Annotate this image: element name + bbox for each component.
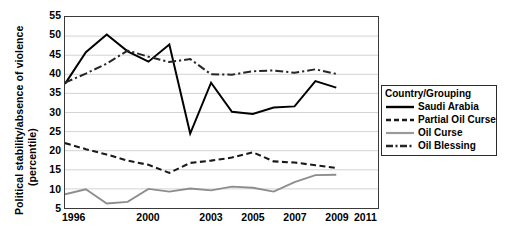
legend-label: Oil Blessing (418, 140, 476, 152)
x-axis-tick-labels: 1996200020032005200720092011 (64, 211, 379, 231)
legend-swatch-partial-oil-curse (385, 114, 415, 125)
legend-swatch-saudi-arabia (385, 101, 415, 112)
legend-swatch-oil-blessing (385, 140, 415, 151)
y-tick-label: 30 (37, 107, 61, 118)
x-tick-label: 2003 (199, 211, 222, 223)
chart-figure: Political stability/absence of violence … (0, 0, 505, 251)
y-tick-label: 5 (37, 203, 61, 214)
legend-label: Partial Oil Curse (418, 114, 496, 126)
legend: Country/Grouping Saudi ArabiaPartial Oil… (381, 85, 497, 156)
y-tick-label: 20 (37, 145, 61, 156)
legend-items: Saudi ArabiaPartial Oil CurseOil CurseOi… (385, 100, 493, 152)
y-axis-title: Political stability/absence of violence … (0, 0, 34, 225)
x-tick-label: 2005 (241, 211, 264, 223)
y-tick-label: 50 (37, 29, 61, 40)
y-tick-label: 40 (37, 68, 61, 79)
x-tick-label: 1996 (62, 211, 85, 223)
y-tick-label: 55 (37, 10, 61, 21)
legend-label: Oil Curse (418, 127, 462, 139)
legend-item[interactable]: Partial Oil Curse (385, 113, 493, 126)
x-tick-label: 2000 (136, 211, 159, 223)
x-tick-label: 2007 (283, 211, 306, 223)
x-tick-label: 2009 (325, 211, 348, 223)
y-tick-label: 15 (37, 164, 61, 175)
y-tick-label: 10 (37, 184, 61, 195)
legend-item[interactable]: Oil Curse (385, 126, 493, 139)
legend-title: Country/Grouping (385, 88, 493, 100)
legend-item[interactable]: Oil Blessing (385, 139, 493, 152)
x-tick-label: 2011 (354, 211, 377, 223)
y-axis-title-line1: Political stability/absence of violence (13, 26, 25, 215)
plot-svg (65, 17, 378, 208)
plot-area (64, 16, 379, 209)
legend-label: Saudi Arabia (418, 101, 479, 113)
y-tick-label: 45 (37, 49, 61, 60)
legend-item[interactable]: Saudi Arabia (385, 100, 493, 113)
y-axis-tick-labels: 510152025303540455055 (34, 0, 61, 225)
series-line-partial-oil-curse (65, 143, 336, 173)
series-line-saudi-arabia (65, 35, 336, 134)
legend-swatch-oil-curse (385, 127, 415, 138)
y-tick-label: 25 (37, 126, 61, 137)
y-tick-label: 35 (37, 87, 61, 98)
